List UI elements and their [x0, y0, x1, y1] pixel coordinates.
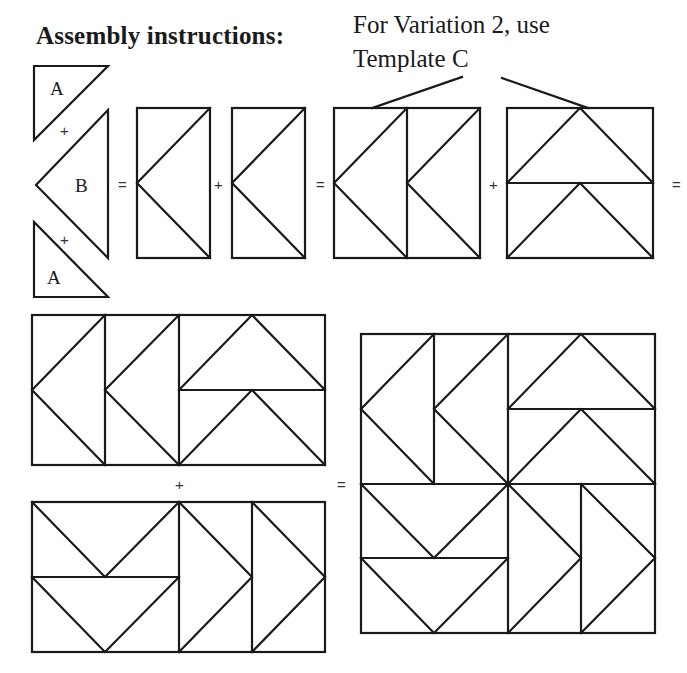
plus-sign: + [489, 176, 498, 193]
equals-sign: = [337, 476, 346, 493]
assembly-diagram: A + B + A = + = + = [0, 0, 687, 673]
piece-a-top-label: A [50, 78, 64, 99]
equals-sign: = [672, 176, 681, 193]
equals-sign: = [316, 176, 325, 193]
finished-block [361, 334, 655, 633]
equals-sign: = [118, 176, 127, 193]
block-bottom-half [32, 502, 325, 652]
piece-a-top: A [34, 66, 108, 140]
block-top-half [32, 315, 325, 465]
plus-sign: + [175, 476, 184, 493]
piece-a-bottom-label: A [47, 267, 61, 288]
plus-sign: + [214, 176, 223, 193]
geese-pair-left [334, 108, 480, 258]
geese-unit-1 [137, 108, 210, 258]
plus-sign: + [60, 231, 69, 248]
template-c-callout [372, 77, 588, 108]
geese-unit-2 [232, 108, 305, 258]
piece-a-bottom: A [34, 222, 108, 297]
geese-pair-up [507, 108, 653, 258]
plus-sign: + [60, 122, 69, 139]
piece-b-label: B [75, 175, 88, 196]
